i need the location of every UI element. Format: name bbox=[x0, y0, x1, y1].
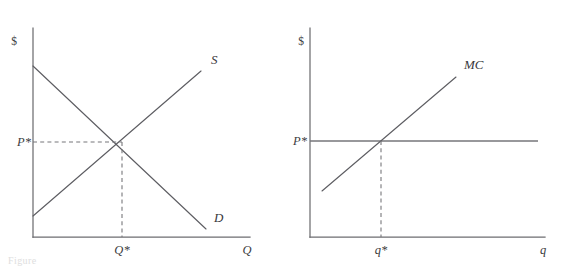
figure-caption-partial: Figure bbox=[8, 255, 37, 266]
supply-curve-label: S bbox=[211, 52, 218, 67]
firm-price-label: P* bbox=[292, 134, 308, 148]
figure-canvas: $ P* Q* Q S D $ P* q* q MC bbox=[0, 0, 564, 271]
economics-figure: $ P* Q* Q S D $ P* q* q MC F bbox=[0, 0, 564, 271]
firm-marginal-cost-diagram: $ P* q* q MC bbox=[292, 28, 546, 257]
firm-y-axis-label: $ bbox=[298, 35, 304, 47]
firm-quantity-label: q* bbox=[375, 243, 388, 257]
supply-curve bbox=[33, 71, 201, 216]
demand-curve bbox=[33, 66, 206, 229]
market-x-axis-label: Q bbox=[242, 243, 251, 257]
market-price-label: P* bbox=[16, 135, 32, 149]
demand-curve-label: D bbox=[213, 210, 224, 225]
market-equilibrium-diagram: $ P* Q* Q S D bbox=[11, 28, 251, 257]
market-quantity-label: Q* bbox=[114, 243, 130, 257]
market-y-axis-label: $ bbox=[11, 35, 17, 47]
marginal-cost-curve bbox=[322, 77, 456, 191]
firm-x-axis-label: q bbox=[540, 243, 546, 257]
marginal-cost-curve-label: MC bbox=[463, 57, 484, 72]
